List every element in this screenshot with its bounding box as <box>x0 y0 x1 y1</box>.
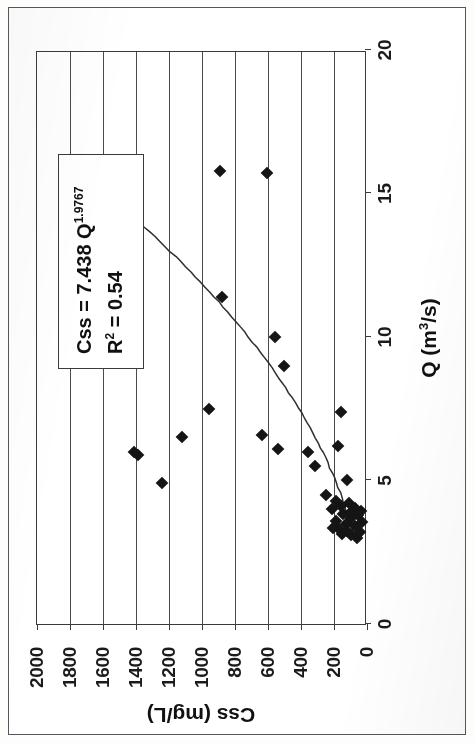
y-axis-tick-label: 1800 <box>59 647 81 688</box>
equation-line: Css = 7.438 Q1.9767 <box>69 155 100 354</box>
chart-figure: Css (mg/L) Q (m3/s) 02004006008001000120… <box>18 21 456 721</box>
rotated-chart-stage: Css (mg/L) Q (m3/s) 02004006008001000120… <box>18 21 456 721</box>
data-point-marker <box>268 331 281 344</box>
y-axis-tick-label: 0 <box>356 647 378 657</box>
x-axis-title-suffix: /s) <box>417 298 440 323</box>
data-point-marker <box>156 477 169 490</box>
y-axis-tick <box>169 624 170 630</box>
y-axis-tick-label: 800 <box>224 647 246 678</box>
gridline <box>334 52 335 624</box>
y-axis-tick-label: 2000 <box>26 647 48 688</box>
equation-annotation-box: Css = 7.438 Q1.9767 R2 = 0.54 <box>58 154 144 369</box>
data-point-marker <box>309 460 322 473</box>
y-axis-tick-label: 1600 <box>92 647 114 688</box>
x-axis-tick-label: 10 <box>374 326 396 347</box>
y-axis-tick <box>235 624 236 630</box>
y-axis-tick <box>367 624 368 630</box>
y-axis-tick <box>268 624 269 630</box>
x-axis-tick <box>365 336 371 337</box>
y-axis-tick <box>37 624 38 630</box>
data-point-marker <box>215 290 228 303</box>
x-axis-tick <box>365 623 371 624</box>
r-squared-superscript: 2 <box>103 333 117 340</box>
data-point-marker <box>341 474 354 487</box>
equation-prefix: Css = 7.438 Q <box>73 223 95 354</box>
y-axis-tick <box>70 624 71 630</box>
y-axis-tick-label: 1000 <box>191 647 213 688</box>
gridline <box>235 52 236 624</box>
y-axis-tick-label: 600 <box>257 647 279 678</box>
y-axis-tick <box>202 624 203 630</box>
y-axis-tick <box>334 624 335 630</box>
scanned-page: Css (mg/L) Q (m3/s) 02004006008001000120… <box>0 0 475 743</box>
data-point-marker <box>302 445 315 458</box>
data-point-marker <box>272 443 285 456</box>
x-axis-tick-label: 5 <box>374 475 396 486</box>
gridline <box>301 52 302 624</box>
y-axis-tick <box>136 624 137 630</box>
data-point-marker <box>277 359 290 372</box>
r-squared-prefix: R <box>104 340 126 354</box>
x-axis-tick-label: 20 <box>374 39 396 60</box>
y-axis-tick-label: 1400 <box>125 647 147 688</box>
r-squared-line: R2 = 0.54 <box>100 155 131 354</box>
data-point-marker <box>176 431 189 444</box>
x-axis-title-prefix: Q (m <box>417 330 440 378</box>
x-axis-tick <box>365 480 371 481</box>
data-point-marker <box>256 428 269 441</box>
data-point-marker <box>261 167 274 180</box>
data-point-marker <box>214 164 227 177</box>
data-point-marker <box>203 402 216 415</box>
y-axis-tick-label: 200 <box>323 647 345 678</box>
x-axis-tick-label: 0 <box>374 619 396 630</box>
x-axis-title-superscript: 3 <box>416 323 431 330</box>
data-point-marker <box>335 405 348 418</box>
y-axis-tick-label: 1200 <box>158 647 180 688</box>
y-axis-title: Css (mg/L) <box>147 703 256 727</box>
y-axis-tick <box>103 624 104 630</box>
gridline <box>202 52 203 624</box>
y-axis-tick-label: 400 <box>290 647 312 678</box>
equation-exponent: 1.9767 <box>72 187 86 224</box>
x-axis-tick-label: 15 <box>374 183 396 204</box>
r-squared-value: = 0.54 <box>104 271 126 333</box>
y-axis-tick <box>301 624 302 630</box>
gridline <box>169 52 170 624</box>
x-axis-title: Q (m3/s) <box>416 298 441 378</box>
scan-frame-border: Css (mg/L) Q (m3/s) 02004006008001000120… <box>8 7 466 735</box>
x-axis-tick <box>365 49 371 50</box>
x-axis-tick <box>365 193 371 194</box>
